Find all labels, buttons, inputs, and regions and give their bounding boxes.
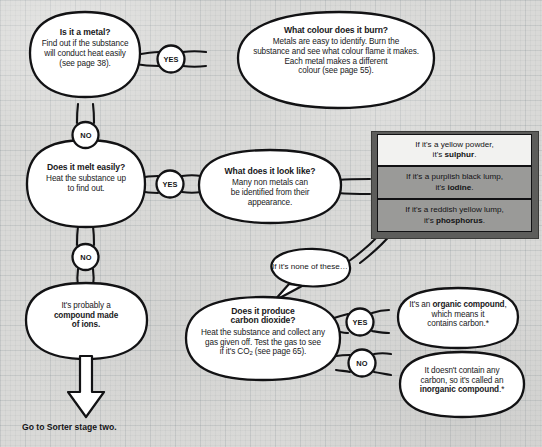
organic-line1: It's an organic compound,: [402, 300, 514, 310]
result-iodine-line1: If it's a purplish black lump,: [406, 172, 503, 182]
node-text-does-it-produce-carbon-dioxide: Does it produce carbon dioxide? Heat the…: [190, 307, 336, 358]
is-metal-heading: Is it a metal?: [24, 28, 146, 38]
connector-co2-no-in: [336, 355, 350, 356]
connector-yes-org-in: [372, 310, 389, 313]
node-text-what-colour-does-it-burn: What colour does it burn? Metals are eas…: [231, 26, 441, 76]
connector-yes-colour-in: [183, 51, 206, 52]
badge-label-no-metal: NO: [73, 131, 99, 140]
result-sulphur-line2: it's sulphur.: [433, 150, 477, 160]
connector-melt-no-top-r: [93, 226, 94, 245]
inorganic-line3: inorganic compound.*: [404, 385, 520, 395]
ionic-line2: compound made: [30, 311, 142, 321]
is-metal-line3: (see page 38).: [24, 59, 146, 69]
callout-label-none-of-these: If it's none of these…: [272, 262, 348, 271]
connector-co2-yes-in: [334, 314, 348, 318]
what-colour-line3: Each metal makes a different: [231, 57, 441, 67]
node-text-ionic-compound: It's probably a compound made of ions.: [30, 301, 142, 330]
arrow-to-stage-two: [68, 356, 104, 417]
result-sulphur-line1: If it's a yellow powder,: [415, 140, 493, 150]
is-metal-line1: Find out if the substance: [24, 39, 146, 49]
co2-line2: gas given off. Test the gas to see: [190, 338, 336, 348]
connector-yes-look-in2: [182, 192, 201, 193]
connector-look-boxes-bot: [338, 193, 370, 194]
result-phosphorus-line2: it's phosphorus.: [424, 216, 485, 226]
look-like-line2: be identified from their: [205, 188, 335, 198]
badge-label-yes-metal: YES: [158, 55, 184, 64]
co2-heading2: carbon dioxide?: [190, 316, 336, 326]
node-text-organic-compound: It's an organic compound, which means it…: [402, 300, 514, 329]
badge-label-yes-co2: YES: [347, 318, 373, 327]
organic-line3: contains carbon.*: [402, 319, 514, 329]
result-box-iodine: If it's a purplish black lump, it's iodi…: [377, 166, 532, 199]
badge-label-no-melt: NO: [73, 253, 99, 262]
is-metal-line2: will conduct heat easily: [24, 49, 146, 59]
look-like-line3: appearance.: [205, 198, 335, 208]
what-colour-heading: What colour does it burn?: [231, 26, 441, 36]
connector-yes-look-in: [182, 175, 201, 176]
ionic-line3: of ions.: [30, 320, 142, 330]
melt-line1: Heat the substance up: [22, 174, 150, 184]
badge-label-yes-melt: YES: [157, 180, 183, 189]
connector-melt-no-top-l: [77, 226, 78, 245]
node-text-does-it-melt-easily: Does it melt easily? Heat the substance …: [22, 163, 150, 194]
result-box-sulphur: If it's a yellow powder, it's sulphur.: [377, 134, 532, 166]
what-colour-line4: colour (see page 55).: [231, 66, 441, 76]
organic-line2: which means it: [402, 310, 514, 320]
inorganic-line1: It doesn't contain any: [404, 366, 520, 376]
inorganic-line2: carbon, so it's called an: [404, 376, 520, 386]
connector-metal-no-top-r: [93, 104, 94, 123]
co2-line3: if it's CO2 (see page 65).: [190, 347, 336, 357]
connector-co2-no-in2: [336, 370, 350, 372]
what-colour-line2: substance and see what colour flame it m…: [231, 47, 441, 57]
flowchart-page: .ink { fill:#ffffff; stroke:#121214; str…: [0, 0, 542, 447]
what-colour-line1: Metals are easy to identify. Burn the: [231, 37, 441, 47]
node-text-inorganic-compound: It doesn't contain any carbon, so it's c…: [404, 366, 520, 395]
node-text-is-it-a-metal: Is it a metal? Find out if the substance…: [24, 28, 146, 68]
look-like-line1: Many non metals can: [205, 178, 335, 188]
connector-no-inorg-in2: [374, 372, 391, 375]
connector-yes-colour-in2: [183, 66, 206, 67]
result-phosphorus-line1: If it's a reddish yellow lump,: [405, 205, 504, 215]
ionic-line1: It's probably a: [30, 301, 142, 311]
co2-line1: Heat the substance and collect any: [190, 328, 336, 338]
result-iodine-line2: it's iodine.: [436, 183, 474, 193]
melt-heading: Does it melt easily?: [22, 163, 150, 173]
badge-label-no-co2: NO: [349, 359, 375, 368]
result-box-phosphorus: If it's a reddish yellow lump, it's phos…: [377, 199, 532, 232]
node-text-what-does-it-look-like: What does it look like? Many non metals …: [205, 167, 335, 207]
look-like-heading: What does it look like?: [205, 167, 335, 177]
label-go-to-sorter-stage-two: Go to Sorter stage two.: [22, 422, 117, 432]
melt-line2: to find out.: [22, 184, 150, 194]
connector-yes-org-in2: [372, 331, 389, 333]
connector-look-boxes-top: [338, 179, 370, 180]
connector-no-inorg-in: [374, 353, 391, 354]
connector-metal-no-top-l: [77, 104, 78, 123]
